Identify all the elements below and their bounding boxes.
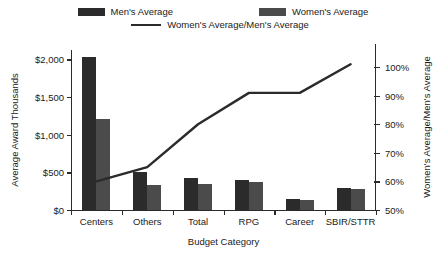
y-axis-left-title-text: Average Award Thousands bbox=[9, 73, 21, 187]
x-axis-tick-label: Total bbox=[188, 216, 208, 227]
y-axis-right-tick-label: 100% bbox=[385, 62, 409, 73]
plot-area: $0$500$1,000$1,500$2,000 50%60%70%80%90%… bbox=[71, 50, 376, 210]
x-axis-tick-label: Centers bbox=[80, 216, 113, 227]
legend-swatch-womens-average bbox=[259, 8, 286, 16]
y-axis-left-tick-label: $2,000 bbox=[35, 54, 64, 65]
y-axis-left-title: Average Award Thousands bbox=[2, 50, 28, 210]
legend-label-mens-average: Men's Average bbox=[111, 6, 173, 17]
y-axis-left-tick-label: $1,500 bbox=[35, 92, 64, 103]
chart-container: Men's Average Women's Average Women's Av… bbox=[0, 0, 446, 262]
x-axis-tick bbox=[122, 210, 123, 215]
x-axis-tick-label: SBIR/STTR bbox=[326, 216, 376, 227]
x-axis-title: Budget Category bbox=[71, 236, 376, 247]
y-axis-left-tick-label: $1,000 bbox=[35, 129, 64, 140]
y-axis-right-tick-label: 70% bbox=[385, 147, 404, 158]
x-axis-tick bbox=[274, 210, 275, 215]
x-axis-tick bbox=[224, 210, 225, 215]
y-axis-right-title: Women's Average/Men's Average bbox=[412, 44, 442, 210]
y-axis-left-tick-label: $500 bbox=[43, 167, 64, 178]
legend-swatch-mens-average bbox=[78, 8, 105, 16]
y-axis-right-title-text: Women's Average/Men's Average bbox=[421, 56, 433, 197]
x-axis-tick-label: Career bbox=[285, 216, 314, 227]
legend-label-ratio: Women's Average/Men's Average bbox=[167, 19, 308, 30]
legend-swatch-ratio-line bbox=[131, 24, 161, 26]
legend-label-womens-average: Women's Average bbox=[292, 6, 368, 17]
legend-item-womens-average: Women's Average bbox=[259, 6, 368, 17]
y-axis-right-tick-label: 50% bbox=[385, 205, 404, 216]
y-axis-right-tick-label: 80% bbox=[385, 119, 404, 130]
chart-legend: Men's Average Women's Average Women's Av… bbox=[0, 6, 446, 30]
x-axis-tick-label: RPG bbox=[239, 216, 260, 227]
x-axis-tick-label: Others bbox=[133, 216, 162, 227]
x-axis-tick bbox=[71, 210, 72, 215]
y-axis-right-tick-label: 60% bbox=[385, 176, 404, 187]
y-axis-right-tick-label: 90% bbox=[385, 90, 404, 101]
legend-item-mens-average: Men's Average bbox=[78, 6, 173, 17]
y-axis-left-tick-label: $0 bbox=[53, 205, 64, 216]
legend-item-ratio: Women's Average/Men's Average bbox=[131, 19, 308, 30]
ratio-line-path bbox=[96, 64, 350, 181]
x-axis-tick bbox=[376, 210, 377, 215]
x-axis-tick bbox=[325, 210, 326, 215]
x-axis-tick bbox=[173, 210, 174, 215]
ratio-line-series bbox=[71, 50, 376, 210]
